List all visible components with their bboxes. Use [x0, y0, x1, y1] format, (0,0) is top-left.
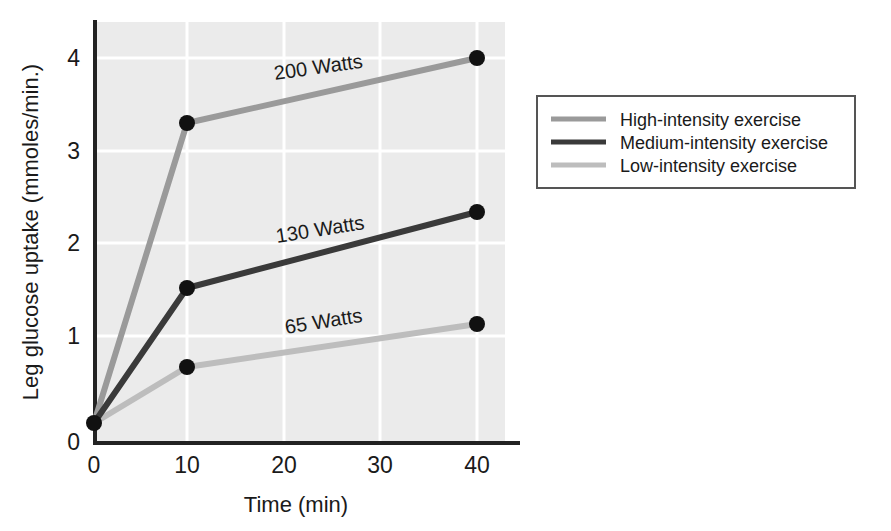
- x-tick-label-20: 20: [271, 452, 297, 478]
- data-point-low-40: [469, 316, 485, 332]
- data-point-medium-10: [179, 280, 195, 296]
- x-tick-label-10: 10: [174, 452, 200, 478]
- data-point-low-10: [179, 359, 195, 375]
- legend-label-medium-intensity: Medium-intensity exercise: [620, 133, 828, 153]
- y-tick-label-1: 1: [67, 323, 80, 349]
- x-tick-label-40: 40: [464, 452, 490, 478]
- y-tick-label-3: 3: [67, 138, 80, 164]
- legend[interactable]: High-intensity exercise Medium-intensity…: [537, 96, 855, 188]
- data-point-origin: [86, 415, 102, 431]
- y-tick-label-2: 2: [67, 230, 80, 256]
- y-tick-label-0: 0: [67, 429, 80, 455]
- y-axis-title: Leg glucose uptake (mmoles/min.): [18, 64, 43, 400]
- x-tick-label-0: 0: [88, 452, 101, 478]
- y-tick-label-4: 4: [67, 45, 80, 71]
- legend-label-low-intensity: Low-intensity exercise: [620, 156, 797, 176]
- data-point-high-40: [469, 50, 485, 66]
- x-tick-label-30: 30: [367, 452, 393, 478]
- chart-figure: 200 Watts 130 Watts 65 Watts 4 3 2 1 0 0…: [0, 0, 891, 531]
- data-point-high-10: [179, 115, 195, 131]
- data-point-medium-40: [469, 204, 485, 220]
- x-axis-title: Time (min): [244, 492, 348, 517]
- line-chart: 200 Watts 130 Watts 65 Watts 4 3 2 1 0 0…: [0, 0, 891, 531]
- legend-label-high-intensity: High-intensity exercise: [620, 110, 801, 130]
